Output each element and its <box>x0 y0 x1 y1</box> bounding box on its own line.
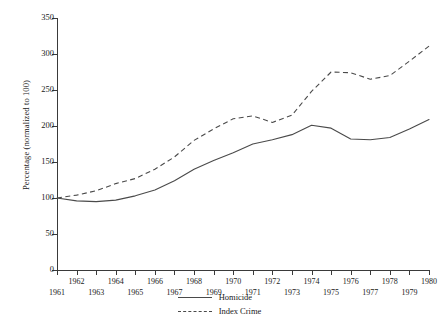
x-tick-mark-1979 <box>409 270 410 275</box>
x-tick-label-1978: 1978 <box>382 277 398 286</box>
x-tick-mark-1976 <box>351 270 352 275</box>
series-lines <box>57 18 429 270</box>
x-tick-label-1962: 1962 <box>69 277 85 286</box>
x-tick-label-1970: 1970 <box>225 277 241 286</box>
x-tick-label-1964: 1964 <box>108 277 124 286</box>
plot-area: 050100150200250300350 196119621963196419… <box>57 18 429 270</box>
x-tick-mark-1974 <box>312 270 313 275</box>
x-tick-mark-1980 <box>429 270 430 275</box>
y-tick-label: 50 <box>46 228 55 238</box>
x-tick-mark-1970 <box>233 270 234 275</box>
y-tick-label: 150 <box>41 156 54 166</box>
x-tick-mark-1975 <box>331 270 332 275</box>
legend-entry-homicide: Homicide <box>178 292 262 302</box>
x-tick-mark-1966 <box>155 270 156 275</box>
x-tick-label-1972: 1972 <box>264 277 280 286</box>
x-tick-label-1980: 1980 <box>421 277 437 286</box>
x-tick-mark-1965 <box>135 270 136 275</box>
y-tick-label: 350 <box>41 12 54 22</box>
legend-label: Homicide <box>219 292 253 302</box>
x-tick-label-1968: 1968 <box>186 277 202 286</box>
y-tick-label: 200 <box>41 120 54 130</box>
x-tick-mark-1961 <box>57 270 58 275</box>
y-tick-label: 250 <box>41 84 54 94</box>
line-index-crime <box>57 46 429 198</box>
legend-swatch-dashed <box>178 311 212 312</box>
x-tick-mark-1972 <box>272 270 273 275</box>
y-axis-title: Percentage (normalized to 100) <box>21 45 31 225</box>
x-tick-label-1976: 1976 <box>343 277 359 286</box>
x-axis-line <box>57 270 429 271</box>
x-tick-mark-1968 <box>194 270 195 275</box>
legend-swatch-solid <box>178 297 212 298</box>
x-tick-mark-1969 <box>214 270 215 275</box>
chart-figure: Percentage (normalized to 100) 050100150… <box>0 0 439 328</box>
line-homicide <box>57 120 429 202</box>
x-tick-mark-1964 <box>116 270 117 275</box>
x-tick-mark-1973 <box>292 270 293 275</box>
x-tick-mark-1962 <box>77 270 78 275</box>
x-tick-mark-1967 <box>174 270 175 275</box>
x-tick-label-1974: 1974 <box>304 277 320 286</box>
legend-entry-index-crime: Index Crime <box>178 306 262 316</box>
x-tick-label-1966: 1966 <box>147 277 163 286</box>
x-tick-mark-1978 <box>390 270 391 275</box>
chart-legend: HomicideIndex Crime <box>0 292 439 316</box>
x-tick-mark-1971 <box>253 270 254 275</box>
legend-label: Index Crime <box>219 306 262 316</box>
y-tick-label: 300 <box>41 48 54 58</box>
y-tick-label: 0 <box>50 264 54 274</box>
x-tick-mark-1963 <box>96 270 97 275</box>
x-tick-mark-1977 <box>370 270 371 275</box>
y-tick-label: 100 <box>41 192 54 202</box>
